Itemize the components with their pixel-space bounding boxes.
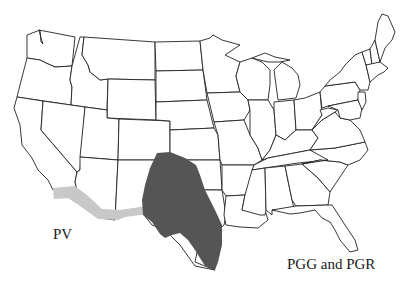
label-pgg-pgr: PGG and PGR [287,256,375,273]
label-pv: PV [53,226,72,243]
us-map [0,0,413,286]
